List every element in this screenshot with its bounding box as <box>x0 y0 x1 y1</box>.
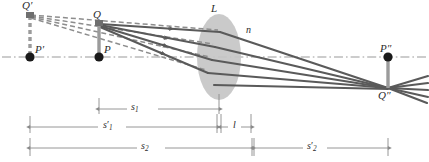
label-Q: Q <box>93 8 101 20</box>
label-P: P <box>104 43 111 55</box>
refracted-ray-2 <box>215 47 388 88</box>
dim-label-s1-sub: 1 <box>135 106 139 114</box>
dim-label-s2p-sub: 2 <box>313 145 317 153</box>
point-Q-prime <box>26 12 34 18</box>
incident-ray-arrowheads <box>160 29 172 55</box>
label-P-prime: P′ <box>35 43 44 55</box>
refracted-ray-1 <box>220 32 388 88</box>
dimension-s1 <box>99 94 219 114</box>
label-Q-prime: Q′ <box>22 0 32 11</box>
arrow-incident-2 <box>163 38 167 39</box>
dim-label-s2-sub: 2 <box>145 145 149 153</box>
arrow-incident-3 <box>162 45 166 46</box>
point-P-prime <box>25 52 34 61</box>
arrow-incident-4 <box>160 53 164 55</box>
label-Q-double-prime: Q″ <box>378 89 391 101</box>
point-P <box>94 52 103 61</box>
dim-label-l-symbol: l <box>233 119 236 130</box>
optics-ray-diagram: Q′ P′ Q P L n P″ Q″ s1 s′1 l s2 s′2 <box>0 0 429 162</box>
dim-label-s1p-sub: 1 <box>109 124 113 132</box>
diverging-ray-bundle <box>388 76 428 103</box>
incident-ray-4 <box>100 27 208 73</box>
label-P-double-prime: P″ <box>380 42 391 54</box>
dim-label-s2: s2 <box>139 140 151 153</box>
point-Q <box>95 20 103 26</box>
dim-label-l: l <box>231 119 238 130</box>
dimension-s2-prime <box>254 138 388 156</box>
dimension-s1-prime <box>30 114 217 133</box>
dim-label-s2-prime: s′2 <box>305 140 319 153</box>
label-index-n: n <box>246 24 251 35</box>
dim-label-s1: s1 <box>129 101 141 114</box>
dim-label-s1-prime: s′1 <box>101 119 115 132</box>
label-lens-L: L <box>211 2 217 14</box>
diagram-canvas <box>0 0 429 162</box>
